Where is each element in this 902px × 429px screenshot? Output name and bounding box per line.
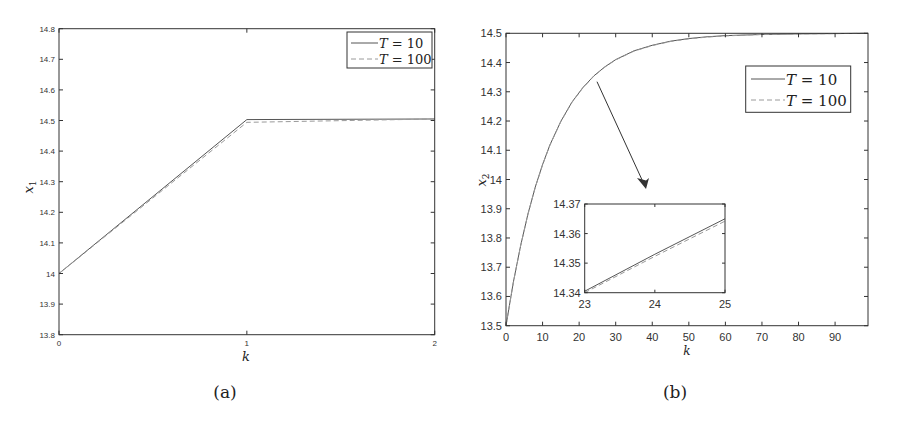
y-tick-label: 13.6 <box>481 290 502 302</box>
x-tick-label: 0 <box>57 339 62 348</box>
chart-a-xlabel: k <box>242 349 250 364</box>
x-tick-label: 0 <box>503 331 509 343</box>
y-tick-label: 14.3 <box>39 178 55 187</box>
y-tick-label: 14.34 <box>553 287 581 299</box>
x-tick-label: 30 <box>610 331 622 343</box>
legend-label-t10: T = 10 <box>379 36 423 51</box>
y-tick-label: 14.5 <box>481 27 502 39</box>
y-tick-label: 14 <box>490 174 502 186</box>
y-tick-label: 13.8 <box>39 331 55 340</box>
y-tick-label: 14.2 <box>481 115 502 127</box>
y-tick-label: 14.36 <box>553 228 581 240</box>
y-tick-label: 14.3 <box>481 86 502 98</box>
chart-b-xlabel: k <box>683 344 690 358</box>
series-line-t10 <box>59 119 435 274</box>
legend-label-t10: T = 10 <box>786 71 837 89</box>
chart-panel-a: 01213.813.91414.114.214.314.414.514.614.… <box>21 25 437 402</box>
y-tick-label: 14.1 <box>39 239 55 248</box>
chart-a-legend: T = 10 T = 100 <box>347 32 432 68</box>
arrow-shaft <box>597 82 643 182</box>
chart-a-axes-box <box>59 29 435 335</box>
chart-a-caption: (a) <box>213 382 236 402</box>
y-tick-label: 13.9 <box>39 300 55 309</box>
y-tick-label: 14.2 <box>39 208 55 217</box>
x-tick-label: 2 <box>432 339 437 348</box>
series-line-t100 <box>59 119 435 274</box>
x-tick-label: 60 <box>719 331 731 343</box>
y-tick-label: 14.4 <box>481 57 502 69</box>
y-tick-label: 14.6 <box>39 86 55 95</box>
y-tick-label: 14.35 <box>553 257 581 269</box>
y-tick-label: 13.7 <box>481 261 502 273</box>
legend-label-t100: T = 100 <box>379 52 432 67</box>
y-tick-label: 13.5 <box>481 320 502 332</box>
x-tick-label: 70 <box>756 331 768 343</box>
x-tick-label: 40 <box>646 331 658 343</box>
x-tick-label: 20 <box>573 331 585 343</box>
y-tick-label: 14.1 <box>481 144 502 156</box>
x-tick-label: 90 <box>829 331 841 343</box>
arrow-head-icon <box>637 178 649 189</box>
chart-panel-b: 010203040506070809013.513.613.713.813.91… <box>474 27 868 402</box>
annotation-arrow <box>597 82 649 189</box>
y-tick-label: 14 <box>46 270 55 279</box>
legend-label-t100: T = 100 <box>786 92 847 110</box>
x-tick-label: 80 <box>792 331 804 343</box>
figure: 01213.813.91414.114.214.314.414.514.614.… <box>0 0 902 429</box>
chart-b-legend: T = 10 T = 100 <box>746 66 851 112</box>
x-tick-label: 50 <box>683 331 695 343</box>
y-tick-label: 13.9 <box>481 203 502 215</box>
chart-b-inset: 23242514.3414.3514.3614.37 <box>553 198 731 310</box>
y-tick-label: 13.8 <box>481 232 502 244</box>
y-tick-label: 14.8 <box>39 25 55 34</box>
chart-b-ylabel: x2 <box>474 173 491 186</box>
chart-a-ticks: 01213.813.91414.114.214.314.414.514.614.… <box>39 25 437 348</box>
chart-a-series <box>59 119 435 274</box>
y-tick-label: 14.4 <box>39 147 55 156</box>
x-tick-label: 23 <box>579 298 591 310</box>
x-tick-label: 1 <box>245 339 250 348</box>
x-tick-label: 25 <box>719 298 731 310</box>
chart-a-ylabel: x1 <box>21 180 38 193</box>
y-tick-label: 14.37 <box>553 198 581 210</box>
y-tick-label: 14.5 <box>39 117 55 126</box>
x-tick-label: 24 <box>649 298 661 310</box>
y-tick-label: 14.7 <box>39 55 55 64</box>
chart-b-caption: (b) <box>663 382 687 402</box>
x-tick-label: 10 <box>536 331 548 343</box>
